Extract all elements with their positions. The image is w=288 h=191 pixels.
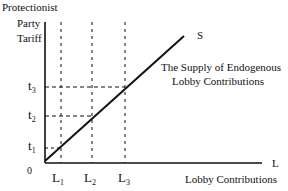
y-axis-label-line2: Party [17, 18, 40, 29]
tick-l2: L2 [84, 171, 96, 184]
x-axis-letter: L [272, 158, 279, 169]
tick-t3: t3 [28, 79, 36, 92]
x-axis-label: Lobby Contributions [185, 174, 277, 185]
origin-label: 0 [27, 166, 32, 176]
curve-caption-line1: The Supply of Endogenous [161, 62, 281, 73]
tick-t2: t2 [28, 108, 36, 121]
curve-label-s: S [197, 30, 203, 41]
y-axis-label-line1: Protectionist [2, 2, 58, 13]
tick-l1: L1 [52, 171, 64, 184]
supply-diagram [0, 0, 288, 191]
supply-curve [45, 36, 184, 161]
tick-l3: L3 [118, 171, 130, 184]
curve-caption-line2: Lobby Contributions [172, 76, 264, 87]
y-axis-label-line3: Tariff [17, 33, 42, 44]
tick-t1: t1 [28, 139, 36, 152]
